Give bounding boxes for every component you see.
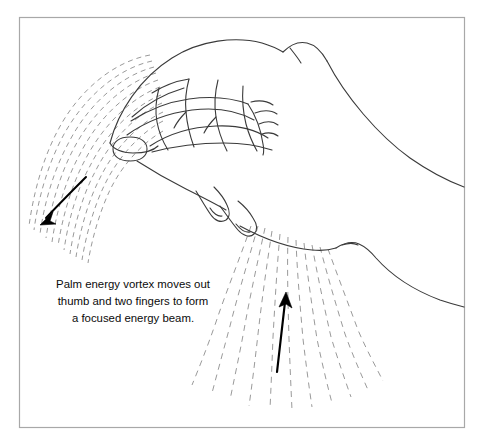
illustration-border xyxy=(20,18,465,428)
caption-text-block: Palm energy vortex moves out thumb and t… xyxy=(56,278,211,324)
caption-line-3: a focused energy beam. xyxy=(72,312,194,324)
palm-energy-vortex-figure: Palm energy vortex moves out thumb and t… xyxy=(0,0,484,448)
caption-line-2: thumb and two fingers to form xyxy=(58,295,209,307)
caption-line-1: Palm energy vortex moves out xyxy=(56,278,211,290)
illustration-canvas: Palm energy vortex moves out thumb and t… xyxy=(0,0,484,448)
